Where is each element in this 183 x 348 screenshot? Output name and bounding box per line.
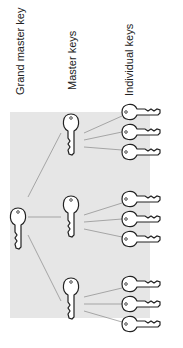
connector-line <box>84 203 122 215</box>
connector-line <box>84 132 122 140</box>
individual-key-icon <box>122 211 160 226</box>
connector-line <box>28 133 61 197</box>
individual-key-icon <box>122 144 160 159</box>
individual-key-icon <box>122 124 160 139</box>
connector-line <box>84 288 122 297</box>
individual-key-icon <box>122 316 160 331</box>
connector-line <box>28 235 61 301</box>
connector-line <box>84 116 122 133</box>
connector-line <box>84 219 122 222</box>
master-key-icon <box>63 114 78 155</box>
individual-key-icon <box>122 104 160 119</box>
connector-line <box>84 311 122 322</box>
individual-key-icon <box>122 191 160 206</box>
connector-line <box>84 229 122 237</box>
grand-master-key-icon <box>10 208 25 249</box>
key-hierarchy-diagram <box>0 0 183 348</box>
connector-line <box>84 147 122 150</box>
master-key-icon <box>63 196 78 237</box>
individual-key-icon <box>122 296 160 311</box>
individual-key-icon <box>122 231 160 246</box>
individual-key-icon <box>122 276 160 291</box>
master-key-icon <box>63 278 78 319</box>
